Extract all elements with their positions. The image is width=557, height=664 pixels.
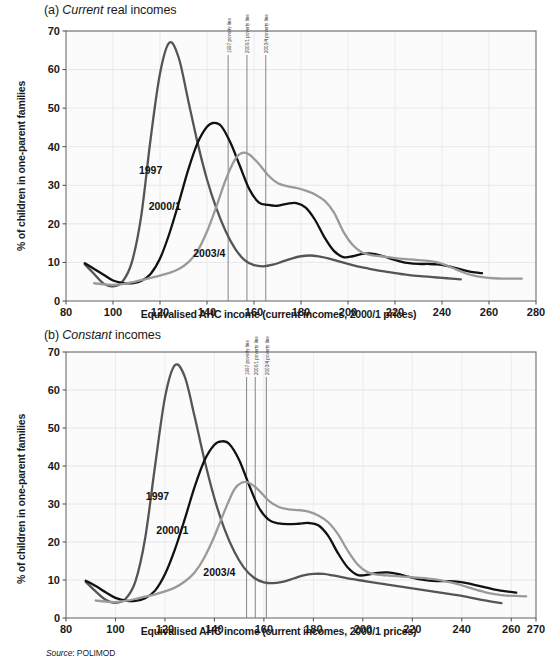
series-label-1997: 1997 xyxy=(146,490,170,502)
panel-current-real-incomes: (a) Current real incomes 010203040506070… xyxy=(0,0,557,325)
y-tick-label: 20 xyxy=(48,218,60,230)
y-tick-label: 50 xyxy=(48,422,60,434)
poverty-line-label: 1997 poverty line xyxy=(227,18,232,53)
y-tick-label: 10 xyxy=(48,574,60,586)
y-tick-label: 0 xyxy=(54,612,60,624)
series-label-2003-4: 2003/4 xyxy=(193,247,225,259)
poverty-line-label: 2000/1 poverty line xyxy=(254,336,259,375)
chart-b-y-axis-label: % of children in one-parent families xyxy=(15,399,27,599)
y-tick-label: 10 xyxy=(48,256,60,268)
chart-b-x-axis-label: Equivalised AHC income (current incomes,… xyxy=(0,625,557,637)
series-label-2000-1: 2000/1 xyxy=(149,200,181,212)
chart-a-y-axis-label: % of children in one-parent families xyxy=(15,66,27,266)
y-tick-label: 60 xyxy=(48,63,60,75)
y-tick-label: 20 xyxy=(48,536,60,548)
panel-constant-incomes: (b) Constant incomes 0102030405060708010… xyxy=(0,325,557,664)
y-tick-label: 70 xyxy=(48,346,60,358)
poverty-line-label: 2003/4 poverty line xyxy=(264,14,269,53)
series-label-2000-1: 2000/1 xyxy=(156,524,188,536)
y-tick-label: 30 xyxy=(48,179,60,191)
series-label-1997: 1997 xyxy=(139,164,163,176)
y-tick-label: 60 xyxy=(48,384,60,396)
source-value: : POLIMOD xyxy=(72,648,115,658)
chart-b-canvas: 0102030405060708010012014016018020022024… xyxy=(0,325,557,645)
y-tick-label: 40 xyxy=(48,460,60,472)
y-tick-label: 40 xyxy=(48,141,60,153)
y-tick-label: 50 xyxy=(48,102,60,114)
poverty-line-label: 2000/1 poverty line xyxy=(245,14,250,53)
chart-a-canvas: 0102030405060708010012014016018020022024… xyxy=(0,0,557,325)
poverty-line-label: 2003/4 poverty line xyxy=(265,336,270,375)
source-note: Source: POLIMOD xyxy=(46,648,115,658)
poverty-line-label: 1997 poverty line xyxy=(245,340,250,375)
series-label-2003-4: 2003/4 xyxy=(203,566,235,578)
y-tick-label: 30 xyxy=(48,498,60,510)
y-tick-label: 0 xyxy=(54,295,60,307)
y-tick-label: 70 xyxy=(48,25,60,37)
chart-a-x-axis-label: Equivalised AHC income (current incomes,… xyxy=(0,308,557,320)
source-prefix: Source xyxy=(46,648,72,658)
